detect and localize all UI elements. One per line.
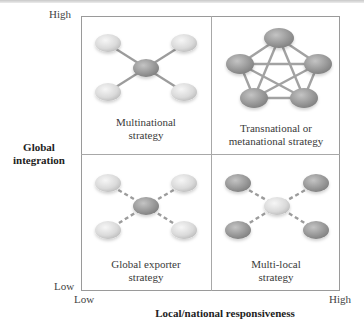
- global-exporter-label-line2: strategy: [81, 271, 211, 284]
- multi-local-label-line1: Multi-local: [212, 258, 340, 271]
- transnational-label: Transnational or metanational strategy: [212, 122, 340, 148]
- global-exporter-label-line1: Global exporter: [81, 258, 211, 271]
- y-axis-high-label: High: [49, 8, 71, 20]
- multi-local-label-line2: strategy: [212, 271, 340, 284]
- global-exporter-network-icon: [90, 170, 202, 250]
- x-axis-low-label: Low: [74, 293, 94, 305]
- transnational-label-line2: metanational strategy: [212, 135, 340, 148]
- y-axis-low-label: Low: [54, 280, 74, 292]
- transnational-network-icon: [224, 24, 334, 112]
- top-border-band: [0, 0, 364, 3]
- y-axis-title-line2: integration: [0, 154, 78, 167]
- multinational-label: Multinational strategy: [81, 116, 211, 142]
- multi-local-label: Multi-local strategy: [212, 258, 340, 284]
- multi-local-network-icon: [220, 168, 332, 248]
- multinational-label-line1: Multinational: [81, 116, 211, 129]
- y-axis-title-line1: Global: [0, 141, 78, 154]
- multinational-label-line2: strategy: [81, 129, 211, 142]
- x-axis-high-label: High: [329, 293, 351, 305]
- x-axis-title: Local/national responsiveness: [120, 307, 330, 320]
- y-axis-title: Global integration: [0, 141, 78, 167]
- multinational-network-icon: [90, 28, 202, 108]
- transnational-label-line1: Transnational or: [212, 122, 340, 135]
- horizontal-divider: [81, 154, 340, 155]
- global-exporter-label: Global exporter strategy: [81, 258, 211, 284]
